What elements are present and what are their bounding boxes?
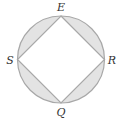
vertex-label-S: S bbox=[6, 54, 14, 67]
inscribed-square-diagram: E R Q S bbox=[0, 0, 122, 119]
vertex-label-R: R bbox=[107, 54, 116, 67]
vertex-label-E: E bbox=[56, 1, 65, 14]
vertex-label-Q: Q bbox=[56, 106, 65, 119]
